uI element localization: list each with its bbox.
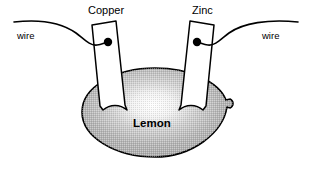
zinc-contact-dot-icon: [193, 38, 201, 46]
label-zinc: Zinc: [192, 5, 213, 16]
copper-contact-dot-icon: [104, 38, 112, 46]
label-wire-right: wire: [262, 31, 279, 41]
label-wire-left: wire: [17, 31, 34, 41]
label-copper: Copper: [88, 5, 124, 16]
lemon-battery-diagram: [0, 0, 311, 169]
label-lemon: Lemon: [133, 118, 171, 130]
diagram-canvas: Copper Zinc wire wire Lemon: [0, 0, 311, 169]
